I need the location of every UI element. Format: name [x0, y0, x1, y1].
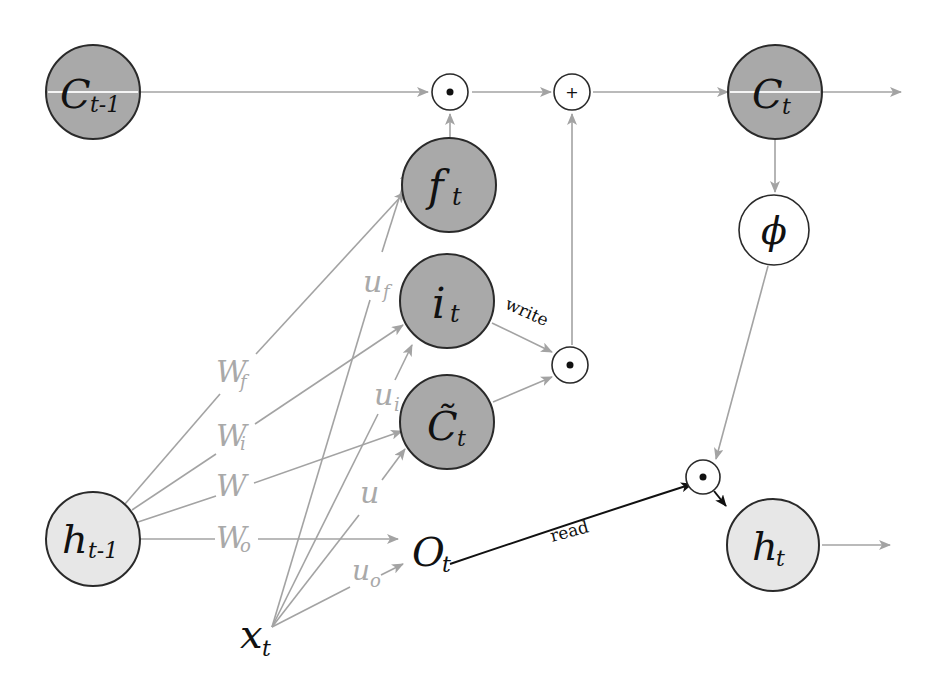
node-phi: ϕ	[739, 195, 809, 265]
label-uf-sub: f	[381, 281, 393, 302]
edge-xt-uo-b	[381, 564, 403, 575]
edge-output-mult-to-ht	[714, 491, 726, 506]
node-c-tilde: C̃ t	[400, 375, 494, 469]
dot-icon	[567, 362, 574, 369]
label-h-t-sub: t	[776, 546, 785, 571]
output-mult-op	[686, 460, 720, 494]
edge-xt-u-b	[382, 449, 405, 480]
label-ui-sub: i	[394, 394, 400, 415]
weight-labels: W f W i W W o u f u i u u o	[216, 264, 400, 591]
label-c-t-main: C	[752, 71, 783, 117]
input-mult-op	[552, 347, 588, 383]
node-h-t: h t	[727, 499, 819, 591]
edge-hprev-wf-b	[256, 192, 405, 354]
plus-icon: +	[565, 83, 578, 102]
label-c-tilde-main: C̃	[427, 403, 458, 449]
label-u-main: u	[360, 475, 379, 510]
edge-hprev-wf-a	[125, 394, 220, 504]
node-h-prev: h t-1	[46, 492, 140, 586]
label-x-t-main: x	[240, 611, 263, 657]
label-uo-main: u	[352, 554, 370, 587]
label-i-t-sub: t	[450, 300, 460, 328]
node-c-t: C t	[728, 45, 822, 139]
node-f-t: f t	[402, 138, 496, 232]
node-o-t: O t	[412, 529, 451, 577]
label-write: write	[502, 293, 551, 330]
label-x-t-sub: t	[262, 636, 271, 661]
label-c-t-sub: t	[782, 94, 791, 119]
node-c-prev: C t-1	[46, 45, 140, 139]
label-wi-sub: i	[240, 433, 246, 454]
label-i-t-main: i	[432, 279, 445, 328]
forget-mult-op	[432, 74, 468, 110]
label-read: read	[548, 516, 591, 545]
lstm-diagram: C t-1 C t f t i t C̃ t h t-1 h t ϕ O t	[0, 0, 947, 695]
edge-hprev-w-a	[138, 496, 216, 522]
label-o-t-main: O	[412, 529, 445, 575]
label-uo-sub: o	[370, 570, 381, 591]
label-o-t-sub: t	[442, 552, 451, 577]
label-h-prev-sub: t-1	[88, 538, 118, 563]
edge-xt-ui-b	[395, 345, 412, 380]
label-h-prev-main: h	[62, 516, 88, 562]
dot-icon	[447, 89, 454, 96]
label-c-tilde-sub: t	[457, 426, 466, 451]
cell-add-op: +	[554, 74, 590, 110]
label-h-t-main: h	[752, 523, 778, 569]
node-i-t: i t	[400, 254, 494, 348]
label-c-prev-sub: t-1	[90, 92, 120, 117]
label-ui-main: u	[374, 377, 393, 412]
label-uf-main: u	[363, 264, 382, 299]
dot-icon	[700, 474, 707, 481]
edge-xt-uo-a	[272, 587, 350, 627]
label-wf-sub: f	[238, 371, 250, 392]
edge-xt-ui-a	[272, 414, 378, 627]
edge-ctilde-to-input-mult	[493, 377, 552, 402]
label-c-prev-main: C	[60, 71, 91, 117]
label-w-main: W	[216, 468, 249, 503]
label-phi: ϕ	[761, 209, 787, 253]
edge-xt-u-a	[272, 515, 359, 627]
label-f-t-sub: t	[452, 183, 462, 211]
edge-phi-to-output-mult	[716, 266, 768, 459]
label-wo-sub: o	[240, 535, 251, 556]
node-x-t: x t	[240, 611, 271, 661]
